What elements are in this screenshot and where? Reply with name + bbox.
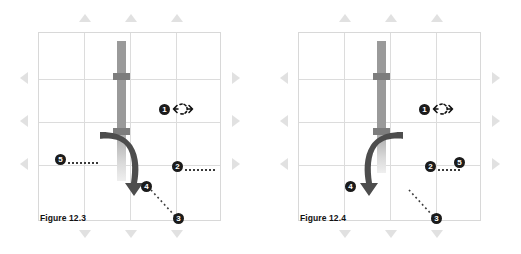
- callout-5[interactable]: 5: [55, 153, 98, 165]
- callout-1[interactable]: 1: [159, 101, 194, 117]
- edge-marker-top-2[interactable]: [125, 14, 137, 22]
- edge-marker-bottom-1[interactable]: [339, 230, 351, 238]
- callout-number: 3: [173, 213, 184, 224]
- callout-number: 4: [345, 181, 356, 192]
- edge-marker-bottom-3[interactable]: [431, 230, 443, 238]
- grid-canvas-12-4: 1 2 5 4: [298, 32, 481, 221]
- figure-sheet: 1 2 5 4: [0, 0, 521, 254]
- figure-caption-12-3: Figure 12.3: [40, 213, 86, 223]
- edge-marker-right-1[interactable]: [232, 72, 240, 84]
- callout-number: 5: [55, 154, 66, 165]
- callout-3[interactable]: 3: [173, 213, 184, 224]
- edge-marker-top-2[interactable]: [385, 14, 397, 22]
- edge-marker-left-1[interactable]: [20, 72, 28, 84]
- edge-marker-right-2[interactable]: [232, 115, 240, 127]
- edge-marker-bottom-2[interactable]: [385, 230, 397, 238]
- callout-number: 5: [454, 157, 465, 168]
- callout-number: 1: [419, 104, 430, 115]
- callout-number: 2: [172, 161, 183, 172]
- callout-4[interactable]: 4: [345, 181, 356, 192]
- edge-marker-bottom-1[interactable]: [79, 230, 91, 238]
- edge-marker-top-3[interactable]: [431, 14, 443, 22]
- edge-marker-bottom-2[interactable]: [125, 230, 137, 238]
- sweep-arrow-left: [299, 33, 482, 222]
- edge-marker-right-1[interactable]: [492, 72, 500, 84]
- edge-marker-top-1[interactable]: [339, 14, 351, 22]
- edge-marker-left-3[interactable]: [280, 158, 288, 170]
- edge-marker-left-2[interactable]: [280, 115, 288, 127]
- figure-caption-12-4: Figure 12.4: [300, 213, 346, 223]
- leader-line-2: [438, 169, 460, 172]
- callout-2[interactable]: 2: [172, 160, 215, 172]
- callout-number: 3: [431, 213, 442, 224]
- figure-panel-12-4: 1 2 5 4: [260, 0, 521, 254]
- callout-number: 1: [159, 104, 170, 115]
- edge-marker-right-2[interactable]: [492, 115, 500, 127]
- grid-canvas-12-3: 1 2 5 4: [38, 32, 221, 221]
- edge-marker-left-2[interactable]: [20, 115, 28, 127]
- edge-marker-right-3[interactable]: [232, 158, 240, 170]
- edge-marker-left-3[interactable]: [20, 158, 28, 170]
- rotation-arrows-icon: [432, 101, 454, 117]
- rotation-arrows-icon: [172, 101, 194, 117]
- edge-marker-bottom-3[interactable]: [171, 230, 183, 238]
- edge-marker-right-3[interactable]: [492, 158, 500, 170]
- edge-marker-left-1[interactable]: [280, 72, 288, 84]
- sweep-arrow-right: [39, 33, 222, 222]
- leader-line-5: [68, 162, 98, 165]
- callout-number: 2: [425, 161, 436, 172]
- callout-5[interactable]: 5: [454, 157, 465, 168]
- edge-marker-top-3[interactable]: [171, 14, 183, 22]
- callout-1[interactable]: 1: [419, 101, 454, 117]
- figure-panel-12-3: 1 2 5 4: [0, 0, 261, 254]
- callout-3[interactable]: 3: [431, 213, 442, 224]
- leader-line-2: [185, 169, 215, 172]
- edge-marker-top-1[interactable]: [79, 14, 91, 22]
